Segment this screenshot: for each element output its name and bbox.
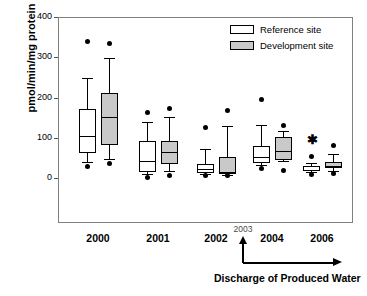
outlier-point	[259, 97, 264, 102]
discharge-arrow-horizontal	[243, 262, 334, 264]
x-tick-label: 2006	[298, 232, 346, 244]
y-tick-label: 200	[26, 93, 52, 102]
y-tick-label: 0	[26, 173, 52, 182]
outlier-point	[167, 106, 172, 111]
x-tick-label: 2001	[134, 232, 182, 244]
x-tick-label-2003: 2003	[226, 224, 260, 234]
outlier-point	[85, 39, 90, 44]
significance-star: ✱	[307, 136, 318, 144]
median-line	[275, 151, 292, 152]
outlier-point	[281, 123, 286, 128]
outlier-point	[259, 166, 264, 171]
whisker-cap	[104, 58, 115, 59]
box-iqr	[79, 109, 96, 152]
box-iqr	[139, 141, 156, 172]
y-tick-label: 300	[26, 52, 52, 61]
whisker-cap	[200, 149, 211, 150]
median-line	[79, 136, 96, 137]
outlier-point	[331, 143, 336, 148]
whisker-cap	[278, 161, 289, 162]
outlier-point	[145, 175, 150, 180]
discharge-arrow-up-head	[239, 236, 247, 244]
box-iqr	[275, 137, 292, 160]
box-iqr	[101, 93, 118, 145]
whisker-cap	[306, 163, 317, 164]
y-tick-label: 100	[26, 133, 52, 142]
outlier-point	[85, 164, 90, 169]
whisker-cap	[142, 122, 153, 123]
legend-item: Reference site	[230, 22, 333, 36]
legend-item: Development site	[230, 38, 333, 52]
whisker-cap	[278, 131, 289, 132]
outlier-point	[167, 173, 172, 178]
outlier-point	[107, 161, 112, 166]
legend-label: Development site	[260, 40, 333, 51]
median-line	[139, 161, 156, 162]
white-box-swatch	[230, 25, 254, 34]
whisker-cap	[164, 117, 175, 118]
outlier-point	[309, 154, 314, 159]
whisker-cap	[82, 78, 93, 79]
x-tick-label: 2000	[74, 232, 122, 244]
median-line	[101, 117, 118, 118]
whisker-cap	[164, 171, 175, 172]
outlier-point	[225, 108, 230, 113]
median-line	[253, 157, 270, 158]
median-line	[303, 170, 320, 171]
whisker-cap	[222, 126, 233, 127]
median-line	[161, 152, 178, 153]
discharge-arrow-vertical	[242, 242, 244, 263]
outlier-point	[331, 171, 336, 176]
outlier-point	[309, 172, 314, 177]
outlier-point	[145, 110, 150, 115]
y-tick-label: 400	[26, 12, 52, 21]
whisker-cap	[328, 154, 339, 155]
median-line	[325, 166, 342, 167]
legend-label: Reference site	[260, 24, 321, 35]
whisker-cap	[256, 125, 267, 126]
whisker-cap	[82, 162, 93, 163]
outlier-point	[281, 168, 286, 173]
box-iqr	[253, 146, 270, 162]
outlier-point	[203, 125, 208, 130]
discharge-arrow-right-head	[333, 258, 342, 266]
discharge-caption: Discharge of Produced Water	[214, 272, 361, 284]
outlier-point	[107, 41, 112, 46]
chart-figure: pmol/min/mg protein 4003002001000 ✱ Refe…	[0, 0, 367, 296]
whisker-cap	[104, 159, 115, 160]
chart-legend: Reference siteDevelopment site	[230, 22, 333, 54]
gray-box-swatch	[230, 41, 254, 50]
median-line	[197, 169, 214, 170]
